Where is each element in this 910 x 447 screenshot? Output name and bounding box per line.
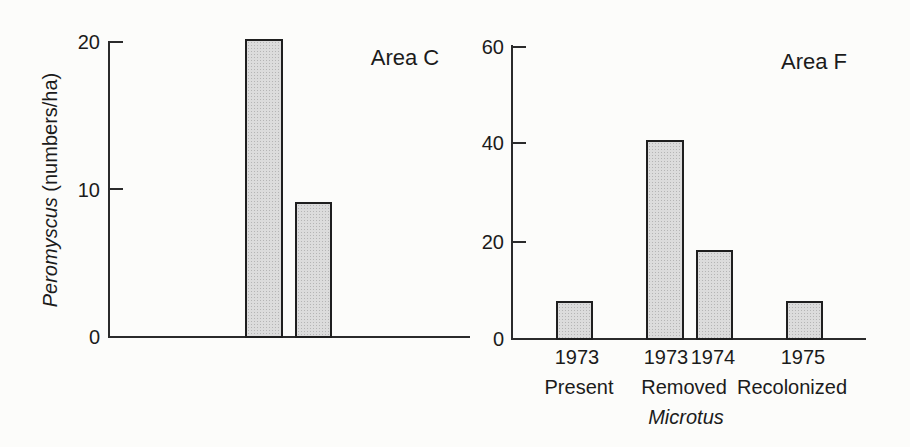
tickmark-c-10: [109, 188, 123, 190]
bar-area-c-bar-2: [295, 202, 332, 338]
ytick-label-c-20: 20: [52, 31, 100, 53]
treatment-label-recolonized: Recolonized: [737, 376, 847, 398]
xtick-year-1973-removed: 1973: [644, 346, 689, 368]
species-label-microtus: Microtus: [648, 406, 724, 428]
bar-area-f-1973 Removed: [646, 140, 684, 340]
ytick-label-c-0: 0: [52, 326, 100, 348]
ytick-label-f-40: 40: [456, 132, 504, 154]
ytick-label-f-0: 0: [456, 328, 504, 350]
xtick-year-1975: 1975: [781, 346, 826, 368]
tickmark-f-40: [512, 142, 526, 144]
bar-area-c-bar-1: [245, 39, 283, 338]
y-axis-line-f: [511, 45, 513, 340]
panel-title-area-f: Area F: [781, 49, 847, 75]
y-axis-label-species: Peromyscus: [39, 197, 61, 307]
xtick-year-1974: 1974: [691, 346, 736, 368]
ytick-label-f-20: 20: [456, 231, 504, 253]
treatment-label-removed: Removed: [641, 376, 727, 398]
two-panel-bar-figure: Peromyscus (numbers/ha) Area C 20 10 0 A…: [0, 0, 910, 447]
bar-area-f-1974 Removed: [696, 250, 733, 340]
panel-title-area-c: Area C: [371, 45, 439, 71]
ytick-label-f-60: 60: [456, 36, 504, 58]
tickmark-f-20: [512, 241, 526, 243]
bar-area-f-1975 Recolonized: [786, 301, 823, 340]
xtick-year-1973-present: 1973: [555, 346, 600, 368]
tickmark-c-20: [109, 41, 123, 43]
tickmark-f-60: [512, 46, 526, 48]
treatment-label-present: Present: [545, 376, 614, 398]
bar-area-f-1973 Present: [556, 301, 593, 340]
x-axis-line-c: [108, 336, 470, 338]
ytick-label-c-10: 10: [52, 179, 100, 201]
